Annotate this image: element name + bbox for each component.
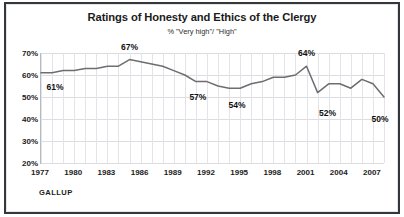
y-axis-tick-label: 30% [4,137,38,146]
chart-screenshot: Ratings of Honesty and Ethics of the Cle… [0,0,404,217]
data-point-label: 50% [371,114,388,124]
gridline-horizontal [41,163,384,164]
y-axis-tick-label: 60% [4,71,38,80]
data-point-label: 64% [298,48,315,58]
y-axis-tick-label: 50% [4,93,38,102]
chart-subtitle: % "Very high"/ "High" [0,27,404,36]
x-axis-tick-label: 2004 [330,168,348,177]
data-point-label: 61% [46,82,63,92]
x-axis-tick-label: 1992 [197,168,215,177]
data-point-label: 52% [319,108,336,118]
x-axis-tick-label: 1989 [164,168,182,177]
chart-title: Ratings of Honesty and Ethics of the Cle… [0,11,404,23]
x-axis-tick-label: 2001 [297,168,315,177]
data-point-label: 54% [229,100,246,110]
y-axis-tick-label: 70% [4,49,38,58]
x-axis-tick-label: 1986 [131,168,149,177]
y-axis-labels: 70%60%50%40%30%20% [0,53,38,164]
x-axis-labels: 1977198019831986198919921995199820012004… [40,168,384,182]
x-axis-tick-label: 1980 [64,168,82,177]
y-axis-tick-label: 40% [4,115,38,124]
x-axis-tick-label: 2007 [363,168,381,177]
data-point-label: 67% [121,42,138,52]
gallup-branding: GALLUP [39,188,73,197]
plot-area: 61%67%57%54%64%52%50% [40,53,384,164]
gridline-vertical [384,53,385,163]
x-axis-tick-label: 1998 [263,168,281,177]
y-axis-tick-label: 20% [4,159,38,168]
data-point-label: 57% [189,92,206,102]
x-axis-tick-label: 1983 [97,168,115,177]
x-axis-tick-label: 1977 [31,168,49,177]
x-axis-tick-label: 1995 [230,168,248,177]
